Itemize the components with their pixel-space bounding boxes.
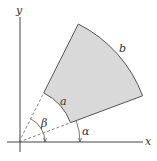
outer-radius-label: b xyxy=(119,42,126,55)
alpha-angle-arc xyxy=(76,121,80,142)
shaded-region xyxy=(44,24,143,123)
inner-radius-label: a xyxy=(60,95,67,108)
x-axis-label: x xyxy=(145,135,152,148)
alpha-label: α xyxy=(82,125,90,138)
ray-beta-dashed xyxy=(19,93,44,142)
polar-region-diagram: y x b a β α xyxy=(0,0,157,161)
beta-label: β xyxy=(40,117,47,130)
y-axis-label: y xyxy=(15,4,23,17)
